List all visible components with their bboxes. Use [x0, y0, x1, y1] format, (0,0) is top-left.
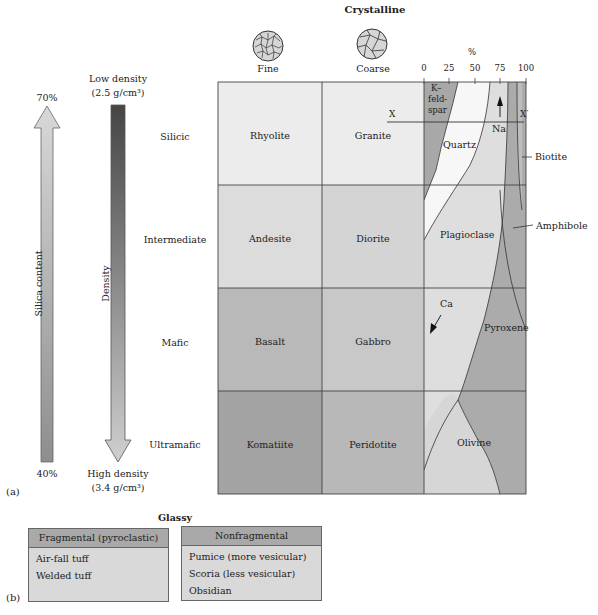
silica-axis-label: Silica content	[33, 234, 44, 334]
nonfragmental-header: Nonfragmental	[182, 527, 321, 546]
density-top-line1: Low density	[78, 73, 158, 84]
mineral-olivine: Olivine	[457, 437, 491, 448]
panel-label-a: (a)	[6, 486, 20, 497]
fragmental-item: Welded tuff	[29, 567, 168, 584]
coarse-label: Coarse	[349, 63, 397, 74]
mineral-biotite: Biotite	[535, 151, 567, 162]
fragmental-item: Air-fall tuff	[29, 550, 168, 567]
coarse-texture-icon	[357, 29, 387, 59]
mineral-ca: Ca	[440, 298, 453, 309]
percent-unit: %	[462, 47, 482, 57]
silica-top-label: 70%	[27, 92, 67, 103]
silica-bottom-label: 40%	[27, 468, 67, 479]
nonfragmental-box: Nonfragmental Pumice (more vesicular) Sc…	[181, 526, 322, 601]
fragmental-header: Fragmental (pyroclastic)	[29, 529, 168, 548]
nonfragmental-item: Scoria (less vesicular)	[182, 565, 321, 582]
mineral-na: Na	[492, 123, 506, 134]
rock-basalt: Basalt	[218, 336, 322, 347]
row-label-ultramafic: Ultramafic	[140, 439, 210, 450]
rock-peridotite: Peridotite	[322, 439, 424, 450]
mineral-plagioclase: Plagioclase	[440, 229, 494, 240]
mineral-pyroxene: Pyroxene	[484, 322, 529, 333]
rock-granite: Granite	[322, 130, 424, 141]
x-label: X	[389, 109, 395, 119]
mineral-amphibole: Amphibole	[536, 220, 588, 231]
row-label-intermediate: Intermediate	[140, 234, 210, 245]
density-axis-label: Density	[100, 254, 111, 314]
row-label-silicic: Silicic	[140, 131, 210, 142]
k-feldspar-line1: K–	[428, 83, 447, 94]
fragmental-box: Fragmental (pyroclastic) Air-fall tuff W…	[28, 528, 169, 602]
k-feldspar-line3: spar	[428, 105, 447, 116]
rock-rhyolite: Rhyolite	[218, 130, 322, 141]
panel-label-b: (b)	[6, 592, 20, 603]
fine-texture-icon	[253, 31, 283, 61]
crystalline-title: Crystalline	[330, 4, 420, 15]
rock-diorite: Diorite	[322, 233, 424, 244]
tick-50: 50	[467, 63, 483, 73]
tick-100: 100	[514, 63, 538, 73]
row-label-mafic: Mafic	[140, 337, 210, 348]
tick-25: 25	[441, 63, 457, 73]
tick-0: 0	[416, 63, 432, 73]
mineral-k-feldspar: K– feld- spar	[428, 83, 447, 116]
tick-75: 75	[492, 63, 508, 73]
density-bottom-line1: High density	[78, 468, 158, 479]
fine-label: Fine	[248, 63, 288, 74]
glassy-title: Glassy	[150, 512, 200, 523]
rock-gabbro: Gabbro	[322, 336, 424, 347]
density-bottom-line2: (3.4 g/cm³)	[78, 482, 158, 493]
nonfragmental-item: Pumice (more vesicular)	[182, 548, 321, 565]
k-feldspar-line2: feld-	[428, 94, 447, 105]
density-top-line2: (2.5 g/cm³)	[78, 87, 158, 98]
rock-komatiite: Komatiite	[218, 439, 322, 450]
mineral-quartz: Quartz	[443, 139, 476, 150]
x-prime-label: X′	[520, 109, 528, 119]
nonfragmental-item: Obsidian	[182, 582, 321, 599]
rock-andesite: Andesite	[218, 233, 322, 244]
